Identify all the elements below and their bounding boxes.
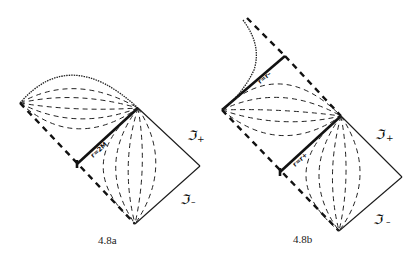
scri-minus-sub: – bbox=[386, 217, 391, 227]
inner-horizon-label: r=r– bbox=[256, 70, 273, 86]
scri-plus-sub: + bbox=[197, 134, 205, 144]
interior-curve bbox=[222, 110, 341, 122]
figure-caption: 4.8b bbox=[293, 233, 313, 245]
interior-curve bbox=[20, 98, 138, 108]
scri-plus-label: ℑ bbox=[375, 127, 386, 142]
exterior-curve bbox=[135, 108, 142, 224]
horizon-label: r=2M bbox=[89, 140, 109, 159]
scri-minus-line bbox=[339, 177, 402, 231]
penrose-diagrams: r=2M ℑ + ℑ – 4.8a r=r– bbox=[0, 0, 419, 255]
scri-plus-sub: + bbox=[386, 133, 394, 143]
figure-4-8b: r=r– r=r+ ℑ + ℑ – 4.8b bbox=[222, 18, 402, 245]
figure-4-8a: r=2M ℑ + ℑ – 4.8a bbox=[20, 75, 205, 246]
scri-plus-line bbox=[341, 116, 402, 177]
exterior-curve bbox=[332, 116, 341, 231]
figure-caption: 4.8a bbox=[98, 234, 117, 246]
scri-minus-label: ℑ bbox=[373, 212, 384, 227]
scri-minus-line bbox=[135, 166, 200, 224]
scri-minus-label: ℑ bbox=[180, 192, 191, 207]
upper-boundary bbox=[285, 56, 341, 116]
exterior-curve bbox=[339, 116, 346, 231]
interior-curve bbox=[20, 89, 138, 108]
exterior-curve bbox=[128, 108, 138, 224]
outer-horizon-label: r=r+ bbox=[291, 151, 309, 169]
interior-curve bbox=[222, 84, 341, 116]
upper-boundary bbox=[247, 18, 285, 56]
exterior-curve bbox=[339, 116, 360, 231]
scri-minus-sub: – bbox=[191, 197, 196, 207]
